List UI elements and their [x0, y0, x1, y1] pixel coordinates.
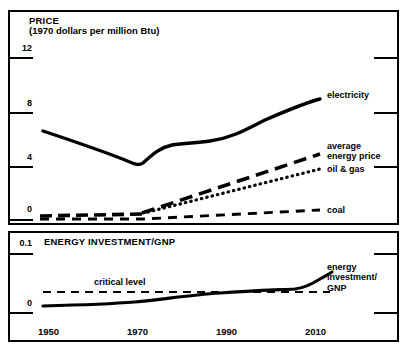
ytick-label-12: 12: [10, 43, 32, 53]
investment-ytick-label-0: 0: [10, 298, 32, 308]
ytick-label-8: 8: [10, 98, 32, 108]
xtick-label-1970: 1970: [127, 327, 148, 338]
xtick-label-2010: 2010: [305, 327, 326, 338]
series-label-average-line1: average: [327, 141, 361, 151]
ytick-label-0: 0: [10, 204, 32, 214]
annotation-critical-level: critical level: [94, 277, 146, 287]
ytick-label-4: 4: [10, 152, 32, 162]
series-label-electricity: electricity: [327, 90, 369, 100]
series-label-oil-and-gas: oil & gas: [327, 164, 365, 174]
investment-panel-title: ENERGY INVESTMENT/GNP: [44, 237, 175, 248]
series-label-invest-line1: energy: [327, 262, 357, 272]
price-panel: [8, 10, 399, 225]
investment-ytick-label-0point1: 0.1: [6, 238, 32, 248]
series-label-energy-investment-gnp: energyinvestment/GNP: [327, 262, 377, 293]
series-label-invest-line3: GNP: [327, 283, 347, 293]
series-label-invest-line2: investment/: [327, 272, 377, 282]
xtick-label-1990: 1990: [216, 327, 237, 338]
series-label-average-energy-price: averageenergy price: [327, 141, 381, 162]
series-label-coal: coal: [327, 205, 345, 215]
xtick-label-1950: 1950: [38, 327, 59, 338]
price-panel-subtitle: (1970 dollars per million Btu): [29, 26, 159, 37]
figure-root: PRICE (1970 dollars per million Btu) ENE…: [0, 0, 407, 350]
series-label-average-line2: energy price: [327, 151, 381, 161]
